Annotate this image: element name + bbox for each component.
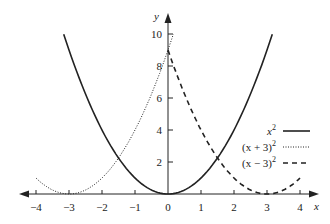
- x-axis-right-arrow-icon: [309, 191, 319, 198]
- legend: x2 (x + 3)2 (x − 3)2: [242, 123, 310, 170]
- legend-label-x-minus-3-squared: (x − 3)2: [242, 155, 276, 170]
- x-tick-label: 0: [165, 201, 171, 213]
- x-tick-label: 1: [198, 201, 204, 213]
- x-tick-label: −3: [63, 201, 75, 213]
- series-dotted-curve: [36, 34, 173, 194]
- x-axis-label: x: [313, 200, 319, 212]
- y-axis-arrow-icon: [165, 13, 172, 23]
- chart: −4−3−2−101234246810 x y x2 (x + 3)2 (x −…: [0, 0, 330, 224]
- y-tick-label: 2: [157, 156, 163, 168]
- x-tick-label: −4: [30, 201, 42, 213]
- series-dashed-curve: [168, 50, 300, 194]
- x-tick-label: 3: [264, 201, 270, 213]
- plot-area: −4−3−2−101234246810 x y x2 (x + 3)2 (x −…: [0, 0, 330, 224]
- x-tick-label: −1: [129, 201, 141, 213]
- y-tick-label: 4: [157, 124, 163, 136]
- axes: [19, 13, 319, 198]
- y-tick-label: 6: [157, 92, 163, 104]
- legend-label-x-plus-3-squared: (x + 3)2: [242, 139, 276, 154]
- legend-label-x-squared: x2: [266, 123, 276, 137]
- y-tick-label: 10: [151, 28, 163, 40]
- y-axis-label: y: [153, 10, 159, 22]
- x-tick-label: 4: [297, 201, 303, 213]
- x-axis-left-arrow-icon: [19, 191, 29, 198]
- y-tick-label: 8: [157, 60, 163, 72]
- x-tick-label: −2: [96, 201, 108, 213]
- x-tick-label: 2: [231, 201, 237, 213]
